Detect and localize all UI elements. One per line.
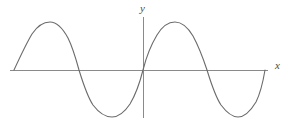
graph-canvas	[0, 0, 297, 125]
sine-curve	[14, 22, 265, 117]
y-axis-label: y	[140, 3, 145, 14]
x-axis-label: x	[275, 60, 280, 71]
sine-curve-figure: y x	[0, 0, 297, 125]
